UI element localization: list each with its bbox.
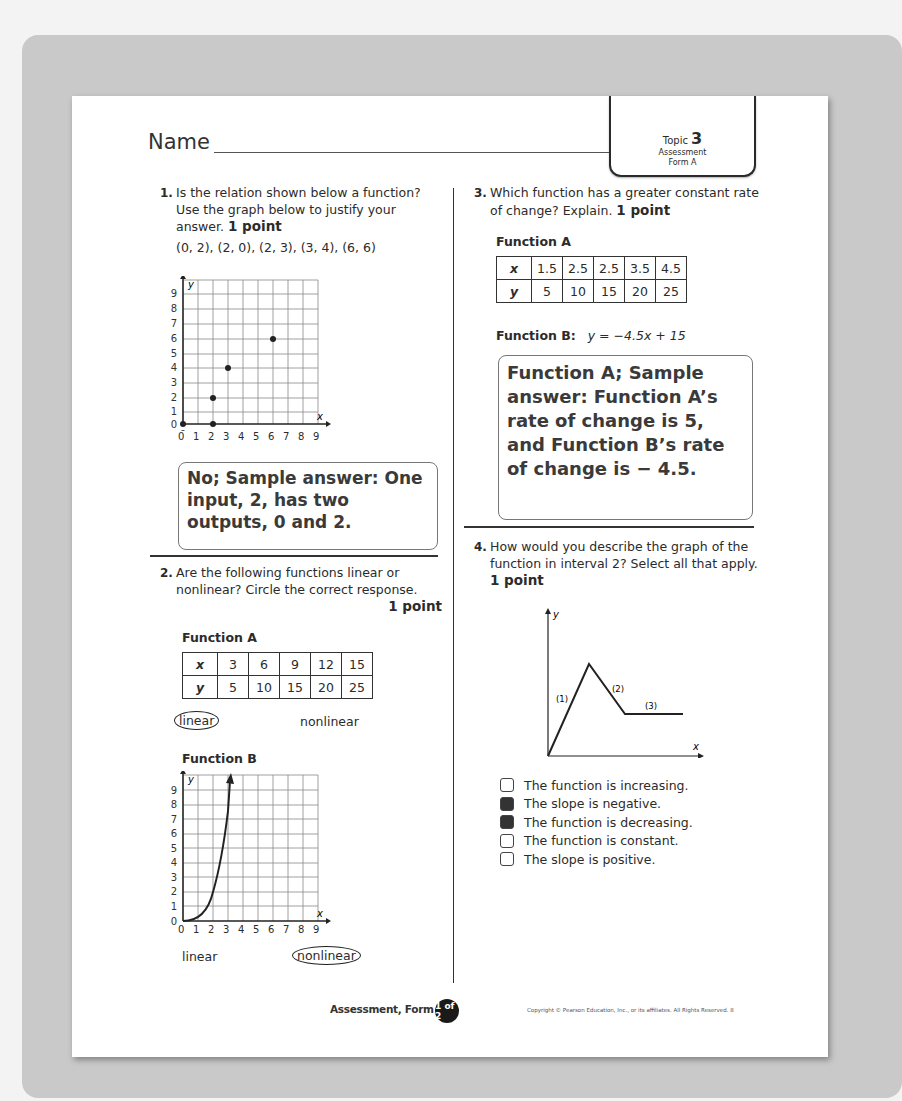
q1-answer-box: No; Sample answer: One input, 2, has two… (178, 462, 438, 550)
table-cell: 5 (218, 676, 249, 699)
table-cell: 20 (311, 676, 342, 699)
table-header-y: y (497, 280, 532, 303)
checkbox-unchecked[interactable] (500, 852, 514, 866)
table-cell: 25 (342, 676, 373, 699)
q2b-option-nonlinear[interactable]: nonlinear (292, 948, 361, 963)
svg-text:9: 9 (171, 785, 177, 796)
q3-function-b-equation: y = −4.5x + 15 (588, 328, 686, 343)
q1-answer-text: No; Sample answer: One input, 2, has two… (179, 463, 437, 537)
q4-option-5[interactable]: The slope is positive. (500, 850, 693, 869)
q4-option-1[interactable]: The function is increasing. (500, 776, 693, 795)
q4-piecewise-graph: y x (1) (2) (3) (540, 608, 710, 758)
q3-prompt: Which function has a greater constant ra… (490, 185, 764, 219)
topic-tab: Topic 3 Assessment Form A (609, 96, 756, 177)
q1-prompt: Is the relation shown below a function? … (176, 185, 440, 236)
q2b-nonlinear-circled[interactable]: nonlinear (292, 946, 361, 965)
page-badge: 1 of 2 (435, 999, 459, 1023)
table-cell: 2.5 (594, 257, 625, 280)
q1-x-ticks: 0123456789 (178, 431, 328, 442)
checkbox-checked[interactable] (500, 815, 514, 829)
question-2: 2. Are the following functions linear or… (160, 565, 442, 614)
q4-option-4[interactable]: The function is constant. (500, 832, 693, 851)
svg-text:8: 8 (171, 303, 177, 314)
svg-text:y: y (187, 774, 195, 785)
topic-number: 3 (691, 129, 702, 148)
tab-line-1: Assessment (611, 148, 754, 158)
q4-text: How would you describe the graph of the … (490, 539, 758, 571)
q2-function-b-graph: y x 987 654 321 0 (162, 771, 337, 936)
question-3: 3. Which function has a greater constant… (474, 185, 764, 219)
table-row: y 5 10 15 20 25 (183, 676, 373, 699)
table-cell: 10 (249, 676, 280, 699)
svg-text:(1): (1) (556, 694, 568, 704)
option-label: The function is constant. (524, 833, 679, 848)
question-1: 1. Is the relation shown below a functio… (160, 185, 440, 256)
svg-text:y: y (187, 279, 195, 290)
table-cell: 9 (280, 653, 311, 676)
svg-text:6: 6 (171, 333, 177, 344)
q4-prompt: How would you describe the graph of the … (490, 539, 764, 590)
q1-text: Is the relation shown below a function? … (176, 185, 421, 234)
q1-number: 1. (160, 186, 173, 200)
q3-function-a-title: Function A (496, 234, 571, 249)
svg-text:3: 3 (171, 377, 177, 388)
q2-function-b-title: Function B (182, 751, 257, 766)
table-cell: 3.5 (625, 257, 656, 280)
q1-scatter-graph: y x 0 987 654 321 0 (162, 276, 337, 431)
q1-q2-divider (150, 555, 438, 557)
table-row: y 5 10 15 20 25 (497, 280, 687, 303)
option-label: The function is increasing. (524, 778, 689, 793)
svg-text:x: x (692, 741, 699, 752)
name-field-line[interactable] (214, 152, 632, 153)
q2-function-a-title: Function A (182, 630, 257, 645)
q2b-option-linear[interactable]: linear (182, 949, 217, 964)
svg-text:(2): (2) (612, 684, 624, 694)
q3-answer-text: Function A; Sample answer: Function A’s … (499, 356, 752, 486)
table-header-x: x (183, 653, 218, 676)
svg-text:8: 8 (171, 799, 177, 810)
svg-text:9: 9 (171, 288, 177, 299)
question-4: 4. How would you describe the graph of t… (474, 539, 764, 590)
q4-points: 1 point (490, 572, 544, 588)
table-cell: 15 (594, 280, 625, 303)
table-row: x 1.5 2.5 2.5 3.5 4.5 (497, 257, 687, 280)
q4-option-3[interactable]: The function is decreasing. (500, 813, 693, 832)
checkbox-unchecked[interactable] (500, 778, 514, 792)
svg-text:x: x (316, 908, 323, 919)
q3-function-b: Function B: y = −4.5x + 15 (496, 328, 686, 343)
name-label: Name (148, 130, 210, 154)
svg-text:1: 1 (171, 406, 177, 417)
q1-points: 1 point (228, 218, 282, 234)
table-cell: 1.5 (532, 257, 563, 280)
q2a-option-linear[interactable]: linear (174, 713, 219, 728)
table-header-y: y (183, 676, 218, 699)
q2-text: Are the following functions linear or no… (176, 565, 442, 598)
q2b-x-ticks: 0123456789 (178, 924, 328, 935)
footer-form-label: Assessment, Form A (330, 1003, 445, 1015)
q2a-option-nonlinear[interactable]: nonlinear (300, 714, 359, 729)
svg-text:4: 4 (171, 362, 177, 373)
checkbox-unchecked[interactable] (500, 834, 514, 848)
svg-text:1: 1 (171, 901, 177, 912)
svg-text:0: 0 (171, 419, 177, 430)
svg-text:2: 2 (171, 886, 177, 897)
q2a-linear-circled[interactable]: linear (174, 711, 219, 730)
q4-option-2[interactable]: The slope is negative. (500, 795, 693, 814)
svg-text:6: 6 (171, 828, 177, 839)
column-divider (453, 188, 454, 983)
table-cell: 4.5 (656, 257, 687, 280)
option-label: The slope is negative. (524, 796, 661, 811)
svg-text:x: x (316, 411, 323, 422)
svg-text:7: 7 (171, 814, 177, 825)
svg-text:3: 3 (171, 872, 177, 883)
checkbox-checked[interactable] (500, 797, 514, 811)
svg-text:7: 7 (171, 318, 177, 329)
q4-options: The function is increasing. The slope is… (500, 776, 693, 869)
option-label: The function is decreasing. (524, 815, 693, 830)
svg-text:0: 0 (171, 916, 177, 927)
q3-answer-box: Function A; Sample answer: Function A’s … (498, 355, 753, 520)
table-cell: 5 (532, 280, 563, 303)
table-row: x 3 6 9 12 15 (183, 653, 373, 676)
option-label: The slope is positive. (524, 852, 655, 867)
table-cell: 25 (656, 280, 687, 303)
